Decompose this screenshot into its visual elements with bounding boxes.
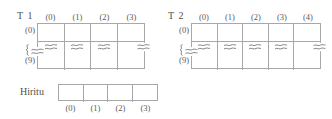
table-break-cell — [294, 42, 320, 52]
table-row[interactable] — [38, 24, 65, 42]
table-t2-column-header-3: (3) — [269, 12, 295, 22]
table-t2-row-label-first: (0) — [167, 25, 189, 35]
table-row[interactable] — [38, 52, 65, 70]
table-row[interactable] — [243, 52, 269, 70]
table-t1-row-label-first: (0) — [13, 25, 35, 35]
hiritu-column-footer-1: (1) — [83, 103, 108, 113]
table-t1-column-header-1: (1) — [64, 12, 91, 22]
table-t2-row-label-last: (9) — [167, 55, 189, 65]
table-break-cell — [192, 42, 218, 52]
table-t1-grid[interactable] — [37, 23, 145, 69]
table-row[interactable] — [218, 24, 244, 42]
table-row[interactable] — [192, 24, 218, 42]
axis-break-icon — [313, 43, 326, 52]
axis-break-icon — [137, 43, 150, 52]
table-row[interactable] — [91, 52, 118, 70]
table-row[interactable] — [294, 24, 320, 42]
table-t2-column-header-0: (0) — [191, 12, 217, 22]
table-row[interactable] — [118, 24, 145, 42]
table-t1-column-header-3: (3) — [118, 12, 145, 22]
table-break-cell — [38, 42, 65, 52]
table-break-cell — [243, 42, 269, 52]
hiritu-cell-0[interactable] — [59, 85, 84, 102]
table-row[interactable] — [243, 24, 269, 42]
table-break-cell — [65, 42, 92, 52]
table-t1-title: T 1 — [17, 11, 33, 21]
axis-break-icon — [275, 43, 288, 52]
axis-break-icon — [44, 43, 57, 52]
hiritu-cell-3[interactable] — [133, 85, 158, 102]
figure-canvas: T 1 (0) (1) (2) (3) (0) (9) — [0, 0, 332, 119]
table-t1-column-header-2: (2) — [91, 12, 118, 22]
table-t2-title: T 2 — [168, 11, 184, 21]
table-t2-column-header-4: (4) — [295, 12, 321, 22]
axis-break-icon — [198, 43, 211, 52]
table-row[interactable] — [118, 52, 145, 70]
table-row[interactable] — [65, 52, 92, 70]
axis-break-icon — [71, 43, 84, 52]
hiritu-label: Hiritu — [20, 87, 44, 97]
table-t2-column-header-2: (2) — [243, 12, 269, 22]
hiritu-cell-2[interactable] — [108, 85, 133, 102]
hiritu-column-footer-3: (3) — [133, 103, 158, 113]
table-break-cell — [91, 42, 118, 52]
table-row[interactable] — [269, 24, 295, 42]
table-row[interactable] — [294, 52, 320, 70]
table-break-cell — [118, 42, 145, 52]
axis-break-icon — [249, 43, 262, 52]
table-t1-row-label-last: (9) — [13, 55, 35, 65]
axis-break-icon — [223, 43, 236, 52]
table-t2-column-header-1: (1) — [217, 12, 243, 22]
table-row[interactable] — [65, 24, 92, 42]
hiritu-column-footer-0: (0) — [58, 103, 83, 113]
vertical-ellipsis-squiggle-icon — [23, 42, 32, 54]
table-row[interactable] — [218, 52, 244, 70]
table-row[interactable] — [91, 24, 118, 42]
vertical-ellipsis-squiggle-icon — [177, 42, 186, 54]
axis-break-icon — [97, 43, 110, 52]
hiritu-column-footer-2: (2) — [108, 103, 133, 113]
table-break-cell — [218, 42, 244, 52]
table-t2-grid[interactable] — [191, 23, 321, 69]
hiritu-cell-1[interactable] — [84, 85, 109, 102]
table-t1-column-header-0: (0) — [37, 12, 64, 22]
table-row[interactable] — [269, 52, 295, 70]
table-row[interactable] — [192, 52, 218, 70]
table-break-cell — [269, 42, 295, 52]
hiritu-grid[interactable] — [58, 84, 158, 101]
